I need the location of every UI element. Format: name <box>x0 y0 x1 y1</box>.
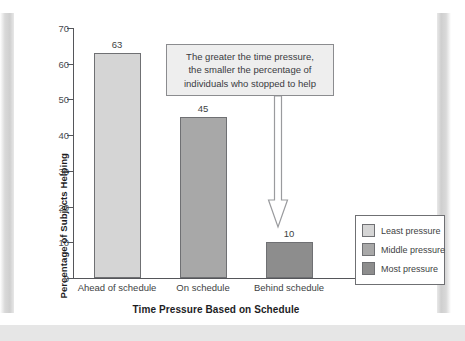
x-axis-category-label: Behind schedule <box>254 282 324 293</box>
legend: Least pressureMiddle pressureMost pressu… <box>355 215 445 285</box>
annotation-text: The greater the time pressure, the small… <box>178 50 322 91</box>
bar-value-label: 63 <box>112 39 123 50</box>
y-axis-tick-label: 70 <box>58 23 69 34</box>
page-edge-left <box>0 13 14 313</box>
x-axis-title: Time Pressure Based on Schedule <box>133 304 300 315</box>
legend-item: Middle pressure <box>362 240 438 259</box>
y-axis-line <box>73 28 74 279</box>
bar <box>180 117 227 278</box>
x-axis-category-label: Ahead of schedule <box>78 282 157 293</box>
figure-canvas: 010203040506070 Percentage of Subjects H… <box>14 6 437 325</box>
x-axis-line <box>73 278 359 279</box>
x-axis-category-label: On schedule <box>176 282 229 293</box>
legend-swatch <box>362 243 375 256</box>
y-axis-title: Percentage of Subjects Helping <box>58 153 69 299</box>
y-axis-tick-label: 40 <box>58 130 69 141</box>
legend-item: Most pressure <box>362 259 438 278</box>
bar-value-label: 45 <box>198 103 209 114</box>
legend-swatch <box>362 224 375 237</box>
page-edge-bottom <box>0 325 465 341</box>
legend-item: Least pressure <box>362 221 438 240</box>
legend-label: Middle pressure <box>381 245 445 255</box>
legend-label: Most pressure <box>381 264 438 274</box>
y-axis-tick-label: 60 <box>58 58 69 69</box>
down-arrow-icon <box>266 96 290 230</box>
y-axis-tick-label: 50 <box>58 94 69 105</box>
bar <box>266 242 313 278</box>
bar <box>94 53 141 278</box>
annotation-callout: The greater the time pressure, the small… <box>166 44 334 96</box>
legend-label: Least pressure <box>381 226 441 236</box>
legend-swatch <box>362 262 375 275</box>
